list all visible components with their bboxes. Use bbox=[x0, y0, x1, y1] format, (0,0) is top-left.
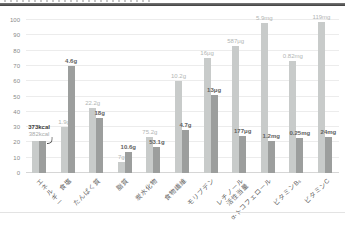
series-light-bar: 587μg bbox=[232, 46, 239, 173]
series-dark-bar: 10.6g bbox=[125, 152, 132, 173]
nutrition-bar-chart: 0102030405060708090100 373kcal382kcal1.9… bbox=[0, 0, 345, 225]
y-tick-label: 70 bbox=[13, 63, 20, 69]
y-tick-label: 40 bbox=[13, 109, 20, 115]
bar-value-label: 7g bbox=[118, 154, 125, 161]
y-tick-label: 80 bbox=[13, 48, 20, 54]
series-dark-bar: 1.2mg bbox=[268, 141, 275, 173]
bar-value-label: 1.2mg bbox=[263, 133, 280, 140]
series-light-bar: 5.9mg bbox=[261, 23, 268, 173]
bar-group: 7g10.6g bbox=[118, 20, 133, 173]
bar-group: 587μg177μg bbox=[232, 20, 247, 173]
series-dark-bar: 4.6g bbox=[68, 66, 75, 173]
x-axis: エネルギー食塩たんぱく質脂質炭水化物食物繊維モリブデンレチノール 活性当量α-ト… bbox=[26, 177, 339, 211]
y-tick-label: 60 bbox=[13, 78, 20, 84]
bar-value-label: 10.2g bbox=[171, 73, 186, 80]
series-dark-bar: 13μg bbox=[211, 95, 218, 173]
series-light-bar: 7g bbox=[118, 162, 125, 173]
series-dark-bar: 177μg bbox=[239, 136, 246, 173]
bar-value-label: 24mg bbox=[321, 129, 337, 136]
bar-group: 22.2g18g bbox=[89, 20, 104, 173]
x-category-label: たんぱく質 bbox=[72, 177, 102, 207]
series-dark-bar: 18g bbox=[96, 118, 103, 173]
clipped-title-text bbox=[4, 0, 154, 2]
bar-group: 119mg24mg bbox=[318, 20, 333, 173]
bar-value-label: 119mg bbox=[312, 14, 330, 21]
series-dark-bar: 24mg bbox=[325, 137, 332, 173]
x-category-label: 脂質 bbox=[115, 177, 130, 192]
bar-value-label: 5.9mg bbox=[256, 15, 273, 22]
bar-group: 5.9mg1.2mg bbox=[261, 20, 276, 173]
y-tick-label: 30 bbox=[13, 124, 20, 130]
series-dark-bar bbox=[39, 141, 46, 173]
x-category-label: モリブデン bbox=[186, 177, 216, 207]
y-tick-label: 20 bbox=[13, 139, 20, 145]
bar-value-label: 587μg bbox=[227, 38, 244, 45]
y-tick-label: 10 bbox=[13, 155, 20, 161]
plot-area: 373kcal382kcal1.9g4.6g22.2g18g7g10.6g75.… bbox=[26, 20, 339, 173]
x-category-label: 炭水化物 bbox=[134, 177, 159, 202]
series-light-bar: 119mg bbox=[318, 22, 325, 173]
bar-value-label: 0.82mg bbox=[283, 53, 303, 60]
series-dark-bar: 4.7g bbox=[182, 130, 189, 173]
bar-value-label: 0.25mg bbox=[290, 130, 311, 137]
y-axis: 0102030405060708090100 bbox=[0, 20, 22, 173]
x-category-label: ビタミンC bbox=[302, 177, 330, 205]
series-dark-bar: 0.25mg bbox=[296, 138, 303, 173]
series-light-bar: 1.9g bbox=[61, 127, 68, 173]
energy-annotation: 373kcal382kcal bbox=[28, 124, 50, 138]
bar-group: 1.9g4.6g bbox=[61, 20, 76, 173]
x-category-label: ビタミンB₆ bbox=[272, 177, 302, 207]
bar-value-label: 4.6g bbox=[65, 58, 77, 65]
series-light-bar bbox=[32, 141, 39, 173]
bar-value-label: 22.2g bbox=[85, 100, 100, 107]
bar-value-label: 16μg bbox=[200, 50, 213, 57]
bar-group: 373kcal382kcal bbox=[32, 20, 47, 173]
y-tick-label: 50 bbox=[13, 94, 20, 100]
bar-group: 16μg13μg bbox=[204, 20, 219, 173]
x-category-label: 食塩 bbox=[58, 177, 73, 192]
top-rule-divider bbox=[0, 3, 345, 6]
bar-value-label: 18g bbox=[95, 110, 105, 117]
bar-value-label: 4.7g bbox=[179, 122, 191, 129]
bar-group: 0.82mg0.25mg bbox=[289, 20, 304, 173]
bar-value-label: 75.2g bbox=[142, 129, 157, 136]
bar-value-label: 13μg bbox=[207, 87, 221, 94]
y-tick-label: 90 bbox=[13, 32, 20, 38]
bar-value-label: 10.6g bbox=[121, 144, 136, 151]
x-category-label: エネルギー bbox=[30, 177, 64, 211]
leader-line bbox=[47, 137, 53, 144]
bottom-divider bbox=[0, 212, 345, 213]
y-tick-label: 0 bbox=[17, 170, 20, 176]
bar-value-label: 177μg bbox=[234, 128, 251, 135]
bar-value-label: 53.1g bbox=[149, 139, 164, 146]
bar-group: 75.2g53.1g bbox=[146, 20, 161, 173]
bar-group: 10.2g4.7g bbox=[175, 20, 190, 173]
series-dark-bar: 53.1g bbox=[153, 147, 160, 173]
series-light-bar: 16μg bbox=[204, 58, 211, 173]
x-category-label: 食物繊維 bbox=[163, 177, 188, 202]
bar-groups: 373kcal382kcal1.9g4.6g22.2g18g7g10.6g75.… bbox=[26, 20, 339, 173]
series-light-bar: 22.2g bbox=[89, 108, 96, 173]
y-tick-label: 100 bbox=[10, 17, 20, 23]
series-light-bar: 0.82mg bbox=[289, 61, 296, 173]
bar-value-label: 373kcal bbox=[28, 124, 50, 131]
